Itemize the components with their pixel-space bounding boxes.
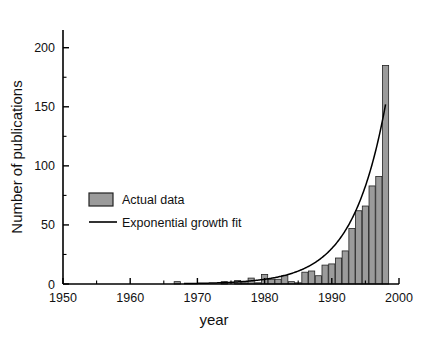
- bar-1997: [376, 176, 382, 284]
- legend-label-exponential-fit: Exponential growth fit: [122, 216, 242, 230]
- x-tick-label-1970: 1970: [183, 291, 211, 305]
- x-tick-label-2000: 2000: [385, 291, 413, 305]
- bar-1992: [342, 251, 348, 284]
- bar-1989: [322, 265, 328, 284]
- x-tick-label-1980: 1980: [251, 291, 279, 305]
- chart-background: [0, 0, 429, 341]
- x-tick-label-1990: 1990: [318, 291, 346, 305]
- bar-1995: [362, 206, 368, 284]
- bar-1988: [315, 276, 321, 284]
- y-tick-label-100: 100: [34, 159, 55, 173]
- bar-1986: [302, 272, 308, 284]
- y-tick-label-150: 150: [34, 100, 55, 114]
- x-tick-label-1950: 1950: [49, 291, 77, 305]
- y-tick-label-50: 50: [41, 218, 55, 232]
- y-axis-title: Number of publications: [8, 80, 25, 233]
- publications-bar-chart: 050100150200 195019601970198019902000 ye…: [0, 0, 429, 341]
- legend-label-actual-data: Actual data: [122, 193, 185, 207]
- bar-1983: [282, 276, 288, 284]
- bar-1991: [335, 258, 341, 284]
- y-tick-label-200: 200: [34, 41, 55, 55]
- x-tick-label-1960: 1960: [116, 291, 144, 305]
- bar-1994: [356, 211, 362, 284]
- x-axis-title: year: [199, 311, 228, 328]
- bar-1987: [309, 271, 315, 284]
- bar-1993: [349, 228, 355, 284]
- bar-1996: [369, 186, 375, 284]
- bar-1998: [382, 65, 388, 284]
- chart-figure: 050100150200 195019601970198019902000 ye…: [0, 0, 429, 341]
- legend-swatch-actual-data: [89, 193, 113, 206]
- y-tick-label-0: 0: [48, 278, 55, 292]
